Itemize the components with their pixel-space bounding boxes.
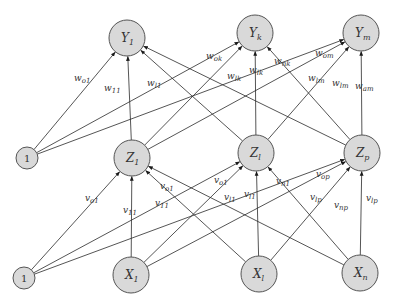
weight-label-v-l1: vl1	[224, 192, 236, 204]
weight-label-v-o1: vo1	[214, 175, 228, 187]
weight-labels: wo1w11wl1wokwlkwlkwnkwomwlmwlmwamvo1v11v…	[74, 48, 378, 217]
edge-zp-to-ym	[361, 52, 362, 136]
edge-zl-to-y1	[141, 50, 243, 141]
weight-label-w-o1: wo1	[74, 73, 90, 85]
node-zl: Zl	[238, 135, 274, 171]
edge-zp-to-y1	[144, 46, 346, 145]
weight-label-w-nk: wnk	[274, 56, 290, 68]
edge-xl-to-zl	[257, 172, 259, 257]
node-xl: Xl	[241, 256, 277, 292]
weight-label-w-am: wam	[355, 81, 374, 93]
edge-bh-to-ym	[37, 40, 343, 155]
weight-label-w-ok: wok	[206, 51, 222, 63]
weight-label-v-n1: vn1	[276, 176, 290, 188]
node-x1: X1	[113, 257, 149, 293]
node-y1: Y1	[109, 20, 145, 56]
edge-z1-to-ym	[148, 42, 345, 149]
edge-bi-to-zl	[34, 162, 240, 273]
neural-network-diagram: Y1YkYm1Z1ZlZp1X1XlXn wo1w11wl1wokwlkwlkw…	[0, 0, 396, 308]
node-xn: Xn	[342, 255, 378, 291]
weight-label-w-lm: wlm	[332, 78, 349, 90]
weight-label-w-l1: wl1	[147, 78, 161, 90]
edge-bi-to-zp	[34, 159, 344, 274]
weight-label-v-o1: vo1	[85, 193, 99, 205]
bias-node-bh: 1	[16, 147, 38, 169]
node-label: 1	[21, 273, 27, 284]
bias-node-bi: 1	[13, 267, 35, 289]
weight-label-v-11: v11	[155, 198, 169, 210]
node-z1: Z1	[114, 140, 150, 176]
node-label: 1	[24, 153, 30, 164]
edge-z1-to-y1	[128, 57, 132, 141]
weight-label-w-lk: wlk	[227, 71, 241, 83]
weight-label-v-11: v11	[123, 205, 137, 217]
edge-bi-to-z1	[31, 172, 119, 270]
node-zp: Zp	[344, 135, 380, 171]
node-ym: Ym	[343, 15, 379, 51]
weight-label-v-l1: vl1	[244, 189, 256, 201]
weight-label-w-lm: wlm	[308, 73, 325, 85]
weight-label-w-lk: wlk	[249, 65, 263, 77]
edge-xn-to-zp	[360, 172, 361, 256]
weight-label-v-lp: vlp	[366, 193, 378, 205]
edge-bh-to-y1	[34, 52, 115, 149]
weight-label-v-lp: vlp	[310, 192, 322, 204]
node-yk: Yk	[237, 15, 273, 51]
weight-label-w-11: w11	[104, 83, 121, 95]
weight-label-v-o1: vo1	[160, 181, 174, 193]
edge-z1-to-yk	[145, 46, 242, 145]
weight-label-v-np: vnp	[334, 200, 349, 212]
